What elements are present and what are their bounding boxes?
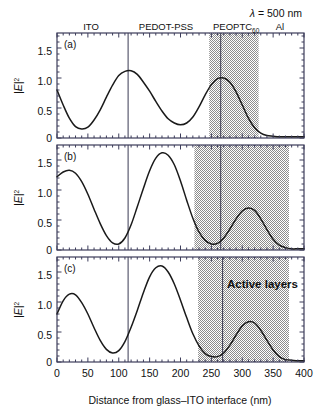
figure-svg: λ = 500 nm (a) ITO PEDOT-PSS PEOPTC60 Al — [0, 0, 323, 419]
panel-a: (a) — [57, 33, 304, 138]
panel-b-shaded-region — [194, 145, 289, 250]
y-axis-title-b-main: |E| — [12, 194, 24, 206]
y-tick-label-b-15: 1.5 — [37, 157, 52, 169]
x-tick-label: 50 — [82, 367, 94, 379]
y-tick-label-b-05: 0.5 — [37, 217, 52, 229]
panel-b-label: (b) — [64, 151, 76, 162]
y-tick-label-c-15: 1.5 — [37, 269, 52, 281]
x-tick-label: 200 — [172, 367, 190, 379]
y-axis-title-b-exp: 2 — [13, 190, 20, 194]
y-axis-title-a-exp: 2 — [13, 78, 20, 82]
panel-a-label: (a) — [64, 39, 76, 50]
y-axis-title-a-main: |E| — [12, 82, 24, 94]
figure-container: λ = 500 nm (a) ITO PEDOT-PSS PEOPTC60 Al — [0, 0, 323, 419]
panel-c-shaded-region — [198, 257, 289, 362]
x-axis-title: Distance from glass–ITO interface (nm) — [88, 394, 271, 406]
y-axis-labels: 0 0.5 1.0 1.5 0 0.5 1.0 1.5 0 0.5 1.0 1.… — [37, 45, 52, 368]
y-tick-label-a-10: 1.0 — [37, 75, 52, 87]
y-tick-label-a-0: 0 — [46, 132, 52, 144]
x-tick-label: 350 — [264, 367, 282, 379]
x-tick-labels: 050100150200250300350400 — [54, 367, 313, 379]
layer-label-al: Al — [276, 21, 284, 32]
layer-label-peoptc60: PEOPTC60 — [213, 21, 260, 34]
x-tick-label: 250 — [203, 367, 221, 379]
y-axis-title-a: |E|2 — [12, 78, 24, 94]
panel-b: (b) — [57, 145, 304, 250]
y-axis-title-b: |E|2 — [12, 190, 24, 206]
y-tick-label-a-05: 0.5 — [37, 105, 52, 117]
svg-text:|E|2: |E|2 — [12, 302, 24, 318]
panel-c: (c) Active layers — [57, 257, 304, 362]
x-tick-label: 150 — [141, 367, 159, 379]
y-tick-label-a-15: 1.5 — [37, 45, 52, 57]
layer-label-ito: ITO — [83, 21, 99, 32]
active-layers-annotation: Active layers — [227, 278, 298, 290]
panel-a-frame — [57, 33, 304, 138]
y-tick-label-b-10: 1.0 — [37, 187, 52, 199]
y-tick-label-c-10: 1.0 — [37, 299, 52, 311]
x-tick-label: 400 — [295, 367, 313, 379]
layer-label-peoptc60-main: PEOPTC — [213, 21, 252, 32]
y-tick-label-b-0: 0 — [46, 244, 52, 256]
y-tick-label-c-05: 0.5 — [37, 329, 52, 341]
layer-label-peoptc60-sub: 60 — [252, 27, 260, 34]
layer-label-pedot-pss: PEDOT-PSS — [139, 21, 193, 32]
wavelength-label: λ = 500 nm — [249, 7, 302, 19]
x-tick-label: 100 — [110, 367, 128, 379]
y-tick-label-c-0: 0 — [46, 356, 52, 368]
y-axis-title-c: |E|2 — [12, 302, 24, 318]
svg-text:|E|2: |E|2 — [12, 78, 24, 94]
svg-text:|E|2: |E|2 — [12, 190, 24, 206]
y-axis-title-c-exp: 2 — [13, 302, 20, 306]
x-tick-label: 300 — [233, 367, 251, 379]
x-tick-label: 0 — [54, 367, 60, 379]
y-axis-title-c-main: |E| — [12, 306, 24, 318]
panel-a-curve — [57, 71, 304, 137]
panel-c-label: (c) — [64, 263, 76, 274]
